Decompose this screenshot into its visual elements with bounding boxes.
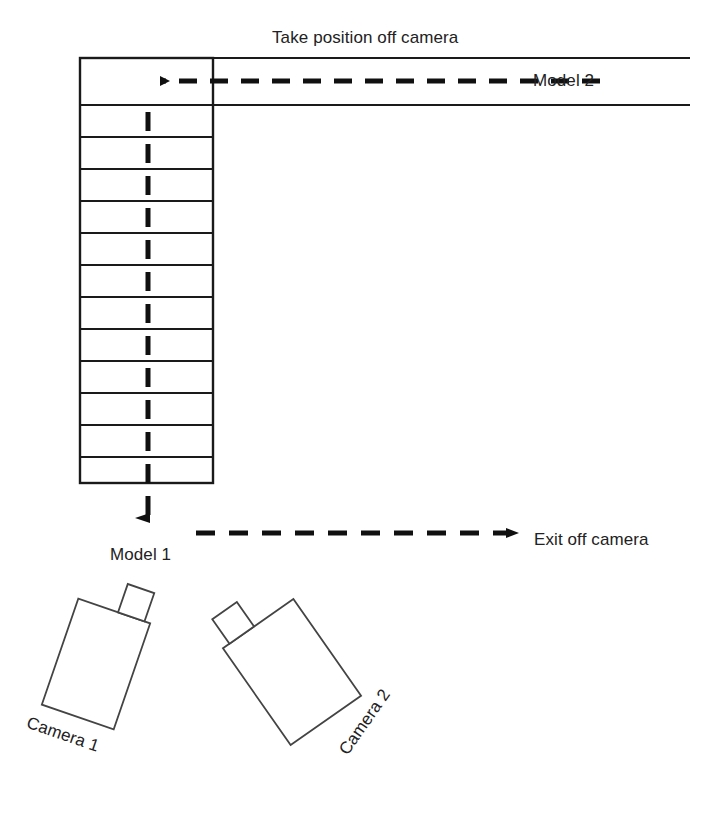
label-model-2: Model 2 (533, 72, 594, 89)
camera-1 (42, 570, 160, 729)
camera-2 (206, 574, 361, 745)
label-exit-off-camera: Exit off camera (534, 531, 649, 548)
diagram-vector-layer (0, 0, 718, 829)
diagram-canvas: Take position off camera Model 2 Exit of… (0, 0, 718, 829)
label-model-1: Model 1 (110, 546, 171, 563)
label-take-position-off-camera: Take position off camera (272, 29, 458, 46)
